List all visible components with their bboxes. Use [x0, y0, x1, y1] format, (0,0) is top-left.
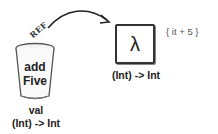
variable-name-line1: add — [15, 60, 55, 74]
variable-keyword: val — [4, 104, 68, 116]
lambda-body: { it + 5 } — [166, 26, 199, 37]
lambda-box: λ — [115, 24, 155, 64]
variable-name: add Five — [15, 60, 55, 88]
variable-name-line2: Five — [15, 74, 55, 88]
lambda-icon: λ — [130, 33, 140, 56]
reference-arrow — [48, 11, 107, 28]
arrow-head-icon — [100, 15, 109, 23]
variable-type: (Int) -> Int — [0, 117, 72, 129]
lambda-type: (Int) -> Int — [100, 69, 172, 81]
